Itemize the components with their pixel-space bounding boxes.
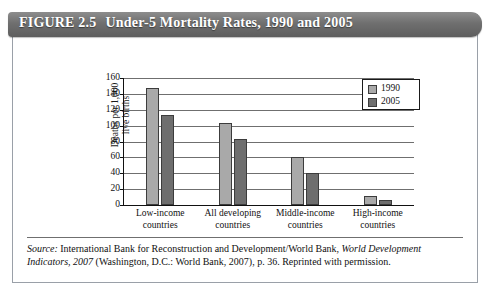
y-tick-mark <box>120 189 124 190</box>
bar-1990-3 <box>291 157 304 205</box>
bar-1990-1 <box>146 88 159 205</box>
y-tick-mark <box>120 205 124 206</box>
x-category-label: All developing countries <box>197 208 270 231</box>
chart-area: Deaths per 1,000 live births 02040608010… <box>13 42 477 232</box>
bar-2005-3 <box>306 173 319 205</box>
y-tick-label: 0 <box>92 200 120 210</box>
y-tick-label: 140 <box>92 89 120 99</box>
y-tick-label: 120 <box>92 105 120 115</box>
y-tick-label: 40 <box>92 168 120 178</box>
y-tick-mark <box>120 78 124 79</box>
legend-label-2005: 2005 <box>381 97 400 107</box>
y-tick-mark <box>120 173 124 174</box>
x-category-label: Low-income countries <box>124 208 197 231</box>
y-tick-mark <box>120 126 124 127</box>
bar-1990-4 <box>364 196 377 205</box>
bar-2005-1 <box>161 115 174 205</box>
y-tick-label: 20 <box>92 184 120 194</box>
chart-legend: 1990 2005 <box>362 79 420 110</box>
y-tick-mark <box>120 142 124 143</box>
legend-label-1990: 1990 <box>381 84 400 94</box>
bar-1990-2 <box>219 123 232 205</box>
bar-2005-2 <box>234 139 247 205</box>
y-tick-label: 100 <box>92 121 120 131</box>
y-tick-mark <box>120 110 124 111</box>
legend-swatch-2005-icon <box>368 98 377 107</box>
y-tick-mark <box>120 94 124 95</box>
y-tick-label: 60 <box>92 152 120 162</box>
plot-area: 020406080100120140160 Low-income countri… <box>123 78 414 206</box>
figure-header-banner: FIGURE 2.5Under-5 Mortality Rates, 1990 … <box>8 12 482 37</box>
source-divider <box>27 237 463 238</box>
source-label: Source: <box>27 243 58 254</box>
source-note: Source: International Bank for Reconstru… <box>27 243 463 268</box>
legend-swatch-1990-icon <box>368 85 377 94</box>
figure-container: FIGURE 2.5Under-5 Mortality Rates, 1990 … <box>12 14 478 283</box>
y-tick-label: 160 <box>92 73 120 83</box>
source-body-2: (Washington, D.C.: World Bank, 2007), p.… <box>93 256 391 267</box>
figure-number: FIGURE 2.5 <box>19 15 96 30</box>
x-category-label: High-income countries <box>342 208 415 231</box>
figure-header-text: FIGURE 2.5Under-5 Mortality Rates, 1990 … <box>19 15 353 31</box>
y-tick-mark <box>120 157 124 158</box>
bar-2005-4 <box>379 200 392 205</box>
y-tick-label: 80 <box>92 137 120 147</box>
legend-item-1990: 1990 <box>368 83 419 95</box>
page-title: Under-5 Mortality Rates, 1990 and 2005 <box>105 15 352 30</box>
source-body-1: International Bank for Reconstruction an… <box>58 243 342 254</box>
x-category-label: Middle-income countries <box>269 208 342 231</box>
legend-item-2005: 2005 <box>368 96 419 108</box>
